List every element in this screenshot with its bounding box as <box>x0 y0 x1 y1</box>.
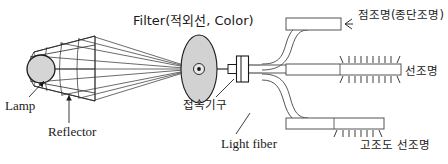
label-filter: Filter(적외선, Color) <box>133 14 254 27</box>
label-point-light: 점조명(종단조명) <box>358 10 444 22</box>
branch-high <box>286 118 384 137</box>
point-emission-rays <box>345 19 353 29</box>
label-lamp: Lamp <box>5 99 35 112</box>
label-line-light: 선조명 <box>405 66 438 78</box>
lamp-bulb <box>27 55 55 83</box>
line-emission-rays-bottom <box>340 76 400 83</box>
label-high-intensity-line-light: 고조도 선조명 <box>360 140 430 152</box>
label-light-fiber: Light fiber <box>221 137 277 150</box>
branch-point <box>286 18 353 30</box>
connector-block <box>217 56 262 82</box>
filter-disk <box>181 35 217 103</box>
label-reflector: Reflector <box>48 125 96 138</box>
high-emission-rays <box>334 130 382 137</box>
diagram-canvas: Filter(적외선, Color) Lamp Reflector 접속기구 L… <box>0 0 448 164</box>
label-connector: 접속기구 <box>183 100 227 112</box>
line-emission-rays-top <box>340 56 400 63</box>
branch-line <box>286 56 401 83</box>
